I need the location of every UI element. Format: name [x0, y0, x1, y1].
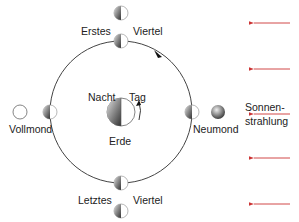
label-nacht: Nacht	[88, 92, 115, 103]
label-neumond: Neumond	[193, 124, 239, 135]
moon-last-quarter-outer	[114, 204, 128, 218]
moon-new-orbit	[185, 105, 199, 119]
moon-new-outer	[211, 105, 225, 119]
sun-rays	[254, 23, 290, 204]
label-erde: Erde	[109, 136, 131, 147]
label-sonnen: Sonnen-	[245, 102, 285, 113]
moon-last-quarter-orbit	[114, 176, 128, 190]
label-viertel-top: Viertel	[133, 26, 163, 37]
label-erstes: Erstes	[81, 26, 111, 37]
moon-first-quarter-orbit	[114, 34, 128, 48]
label-strahlung: strahlung	[245, 116, 288, 127]
label-viertel-bottom: Viertel	[133, 195, 163, 206]
moon-first-quarter-outer	[114, 6, 128, 20]
label-tag: Tag	[129, 92, 146, 103]
label-letztes: Letztes	[78, 195, 112, 206]
label-vollmond: Vollmond	[9, 124, 52, 135]
moon-full-outer	[13, 105, 27, 119]
moon-full-orbit	[43, 105, 57, 119]
